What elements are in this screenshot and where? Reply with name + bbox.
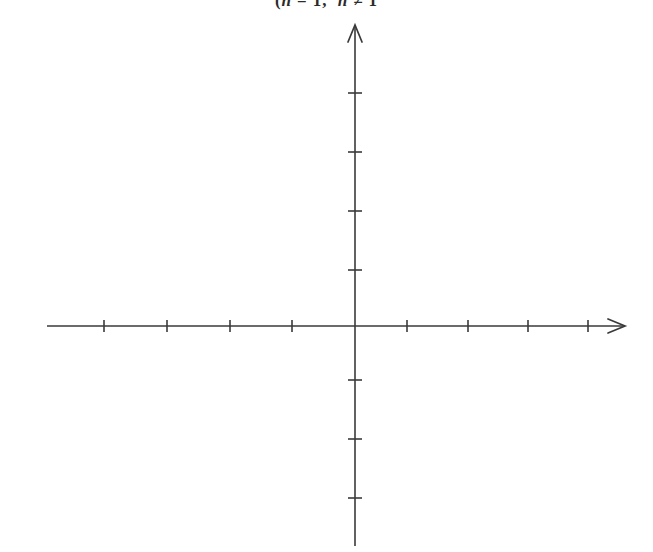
axis-lines-group xyxy=(47,25,625,546)
axis-arrowheads-group xyxy=(348,25,625,333)
coordinate-axes-graphic xyxy=(0,0,653,552)
figure-canvas: (n = 1, n ≠ 1 xyxy=(0,0,653,552)
